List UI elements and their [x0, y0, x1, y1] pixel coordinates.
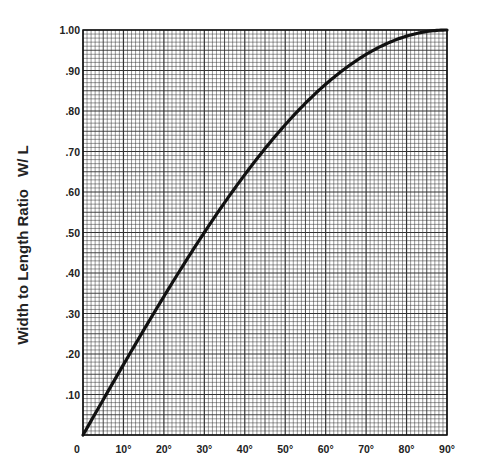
- x-tick-label: 50°: [277, 443, 293, 455]
- x-tick-label: 10°: [115, 443, 131, 455]
- y-tick-label: 1.00: [60, 24, 81, 36]
- x-tick-label: 0: [74, 443, 80, 455]
- y-axis-label-text: Width to Length Ratio: [14, 189, 31, 345]
- x-tick-label: 20°: [156, 443, 172, 455]
- x-tick-label: 60°: [318, 443, 334, 455]
- chart-plot: 010°20°30°40°50°60°70°80°90°.10.20.30.40…: [0, 0, 480, 467]
- x-tick-label: 90°: [439, 443, 455, 455]
- x-tick-label: 70°: [358, 443, 374, 455]
- y-tick-label: .30: [65, 308, 80, 320]
- y-tick-label: .90: [65, 65, 80, 77]
- y-tick-label: .80: [65, 105, 80, 117]
- y-tick-label: .50: [65, 227, 80, 239]
- x-tick-label: 80°: [399, 443, 415, 455]
- x-tick-label: 30°: [196, 443, 212, 455]
- y-tick-label: .70: [65, 146, 80, 158]
- y-tick-label: .60: [65, 186, 80, 198]
- x-tick-label: 40°: [237, 443, 253, 455]
- y-axis-label-symbol: W/ L: [14, 145, 31, 177]
- y-tick-label: .40: [65, 267, 80, 279]
- y-axis-label: Width to Length RatioW/ L: [14, 145, 31, 344]
- y-tick-label: .10: [65, 389, 80, 401]
- y-tick-label: .20: [65, 348, 80, 360]
